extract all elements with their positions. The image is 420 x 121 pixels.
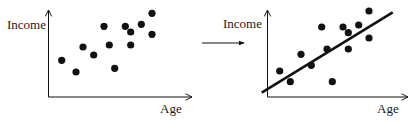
data-point — [138, 21, 145, 28]
regression-line — [262, 12, 393, 92]
left-y-label: Income — [7, 17, 46, 32]
data-point — [355, 21, 362, 28]
data-point — [329, 78, 336, 85]
right-y-label: Income — [223, 16, 262, 31]
right-scatter-plot: Income Age — [223, 7, 408, 116]
data-point — [148, 10, 155, 17]
data-point — [58, 57, 65, 64]
figure: Income Age Income Age — [0, 0, 420, 121]
data-point — [365, 7, 372, 14]
data-point — [111, 65, 118, 72]
data-point — [345, 45, 352, 52]
data-point — [127, 28, 134, 35]
data-point — [90, 51, 97, 58]
left-scatter-plot: Income Age — [7, 10, 192, 116]
data-point — [365, 34, 372, 41]
data-point — [79, 43, 86, 50]
data-point — [122, 23, 129, 30]
data-point — [297, 51, 304, 58]
data-point — [127, 41, 134, 48]
data-point — [106, 41, 113, 48]
left-x-label: Age — [160, 101, 182, 116]
left-data-points — [58, 10, 155, 76]
data-point — [318, 23, 325, 30]
data-point — [339, 23, 346, 30]
data-point — [72, 68, 79, 75]
data-point — [276, 67, 283, 74]
data-point — [148, 31, 155, 38]
right-x-label: Age — [377, 101, 399, 116]
data-point — [100, 23, 107, 30]
data-point — [345, 29, 352, 36]
data-point — [287, 78, 294, 85]
